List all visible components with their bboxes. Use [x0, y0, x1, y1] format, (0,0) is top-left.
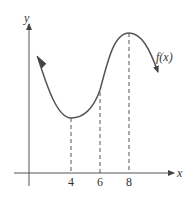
left-arrow-icon [37, 56, 46, 68]
function-curve [38, 33, 158, 118]
curve-label: f(x) [156, 50, 173, 64]
x-tick-4: 4 [68, 175, 74, 189]
x-tick-8: 8 [126, 175, 132, 189]
y-axis-label: y [23, 11, 30, 25]
function-graph: y x f(x) 4 6 8 [0, 0, 193, 198]
x-tick-6: 6 [97, 175, 103, 189]
x-axis-label: x [176, 166, 183, 180]
